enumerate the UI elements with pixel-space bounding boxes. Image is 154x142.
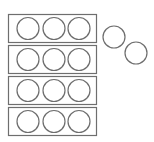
counter-circle <box>17 80 39 102</box>
counter-circle <box>43 80 65 102</box>
group-frame <box>9 46 97 74</box>
counter-circle <box>43 49 65 71</box>
group-frame <box>9 15 97 43</box>
loose-counter-circle <box>125 42 147 64</box>
counter-circle <box>43 18 65 40</box>
loose-counter-circle <box>103 26 125 48</box>
group-frame <box>9 77 97 105</box>
counter-circle <box>68 49 90 71</box>
counter-circle <box>68 18 90 40</box>
counter-circle <box>17 49 39 71</box>
counter-circle <box>17 111 39 133</box>
counter-circle <box>68 111 90 133</box>
group-frame <box>9 108 97 136</box>
counting-diagram <box>0 0 154 142</box>
counter-circle <box>68 80 90 102</box>
grouped-circles <box>9 15 97 136</box>
counter-circle <box>17 18 39 40</box>
counter-circle <box>43 111 65 133</box>
loose-circles <box>103 26 147 64</box>
